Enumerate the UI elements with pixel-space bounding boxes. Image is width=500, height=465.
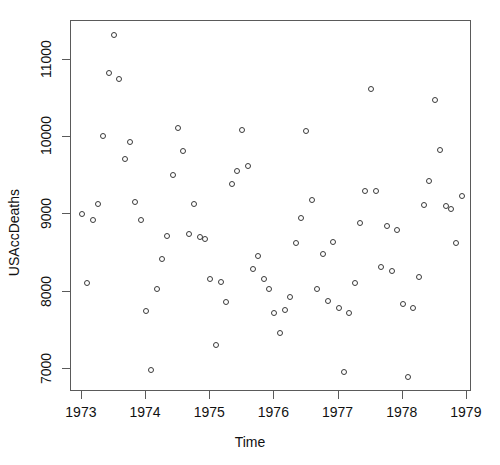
x-axis-tick xyxy=(273,391,274,399)
data-point xyxy=(239,127,245,133)
data-point xyxy=(400,301,406,307)
data-point xyxy=(368,86,374,92)
data-point xyxy=(122,156,128,162)
data-point xyxy=(79,211,85,217)
x-axis-tick-label: 1978 xyxy=(386,404,417,420)
data-point xyxy=(100,133,106,139)
data-point xyxy=(271,310,277,316)
data-point xyxy=(207,276,213,282)
data-point xyxy=(421,202,427,208)
data-point xyxy=(127,139,133,145)
data-point xyxy=(213,342,219,348)
y-axis-tick-label: 10000 xyxy=(38,111,54,161)
data-point xyxy=(245,163,251,169)
x-axis-tick xyxy=(338,391,339,399)
data-point xyxy=(309,197,315,203)
data-point xyxy=(132,199,138,205)
x-axis-tick-label: 1973 xyxy=(65,404,96,420)
data-point xyxy=(84,280,90,286)
data-point xyxy=(432,97,438,103)
data-point xyxy=(90,217,96,223)
data-point xyxy=(261,276,267,282)
data-point xyxy=(325,298,331,304)
data-point xyxy=(186,231,192,237)
data-point xyxy=(154,286,160,292)
data-point xyxy=(148,367,154,373)
data-point xyxy=(143,308,149,314)
data-point xyxy=(170,172,176,178)
data-point xyxy=(234,168,240,174)
data-point xyxy=(138,217,144,223)
data-point xyxy=(282,307,288,313)
data-point xyxy=(303,128,309,134)
y-axis-tick-label: 11000 xyxy=(38,34,54,84)
y-axis-tick xyxy=(62,59,70,60)
y-axis-tick-label: 8000 xyxy=(38,266,54,316)
x-axis-tick-label: 1975 xyxy=(194,404,225,420)
plot-root: 7000800090001000011000197319741975197619… xyxy=(0,0,500,465)
data-point xyxy=(373,188,379,194)
data-point xyxy=(287,294,293,300)
data-point xyxy=(250,266,256,272)
data-point xyxy=(223,299,229,305)
data-point xyxy=(437,147,443,153)
y-axis-tick xyxy=(62,213,70,214)
data-point xyxy=(357,220,363,226)
y-axis-tick xyxy=(62,291,70,292)
data-point xyxy=(277,330,283,336)
x-axis-tick xyxy=(402,391,403,399)
data-point xyxy=(384,223,390,229)
x-axis-tick xyxy=(209,391,210,399)
data-point xyxy=(394,227,400,233)
data-point xyxy=(410,305,416,311)
data-point xyxy=(341,369,347,375)
data-point xyxy=(106,70,112,76)
data-point xyxy=(116,76,122,82)
data-point xyxy=(320,251,326,257)
x-axis-tick xyxy=(81,391,82,399)
data-point xyxy=(191,201,197,207)
data-point xyxy=(330,239,336,245)
data-point xyxy=(453,240,459,246)
x-axis-tick xyxy=(466,391,467,399)
x-axis-tick xyxy=(145,391,146,399)
data-point xyxy=(378,264,384,270)
data-point xyxy=(352,280,358,286)
data-point xyxy=(389,268,395,274)
data-point xyxy=(175,125,181,131)
data-point xyxy=(336,305,342,311)
data-point xyxy=(314,286,320,292)
data-point xyxy=(229,181,235,187)
data-point xyxy=(159,256,165,262)
data-point xyxy=(255,253,261,259)
x-axis-tick-label: 1979 xyxy=(450,404,481,420)
y-axis-tick-label: 9000 xyxy=(38,188,54,238)
y-axis-tick xyxy=(62,136,70,137)
data-point xyxy=(218,279,224,285)
data-point xyxy=(164,233,170,239)
data-point xyxy=(95,201,101,207)
data-point xyxy=(180,148,186,154)
data-point xyxy=(111,32,117,38)
y-axis-title: USAccDeaths xyxy=(4,0,24,465)
x-axis-tick-label: 1974 xyxy=(129,404,160,420)
x-axis-tick-label: 1976 xyxy=(258,404,289,420)
y-axis-tick-label: 7000 xyxy=(38,343,54,393)
data-point xyxy=(416,274,422,280)
y-axis-tick xyxy=(62,368,70,369)
data-point xyxy=(298,215,304,221)
data-point xyxy=(266,286,272,292)
plot-area xyxy=(70,20,471,391)
data-point xyxy=(362,188,368,194)
data-point xyxy=(346,310,352,316)
data-point xyxy=(448,206,454,212)
data-point xyxy=(426,178,432,184)
y-axis-title-text: USAccDeaths xyxy=(6,189,22,276)
data-point xyxy=(202,236,208,242)
data-point xyxy=(405,374,411,380)
x-axis-tick-label: 1977 xyxy=(322,404,353,420)
data-point xyxy=(293,240,299,246)
data-point xyxy=(459,193,465,199)
x-axis-title: Time xyxy=(0,434,500,450)
